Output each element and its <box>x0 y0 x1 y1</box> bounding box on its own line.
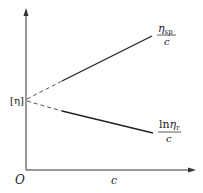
x-axis-label: c <box>111 174 117 187</box>
svg-text:ηsp: ηsp <box>158 22 173 36</box>
svg-text:c: c <box>164 36 170 47</box>
y-axis-arrow-icon <box>24 8 29 16</box>
origin-label: O <box>15 173 25 187</box>
ln-eta-r-line-dashed <box>27 101 62 111</box>
svg-text:c: c <box>166 133 172 144</box>
svg-text:lnηr: lnηr <box>159 118 180 132</box>
eta-sp-over-c-label: ηsp c <box>157 22 176 47</box>
x-axis-arrow-icon <box>188 168 196 173</box>
ln-eta-r-line <box>62 111 153 133</box>
eta-sp-line <box>62 36 152 81</box>
intercept-label: [η] <box>10 95 24 106</box>
ln-eta-r-over-c-label: lnηr c <box>158 118 181 144</box>
viscosity-extrapolation-diagram: [η] O c ηsp c lnηr c <box>0 0 203 193</box>
eta-sp-line-dashed <box>27 81 62 99</box>
